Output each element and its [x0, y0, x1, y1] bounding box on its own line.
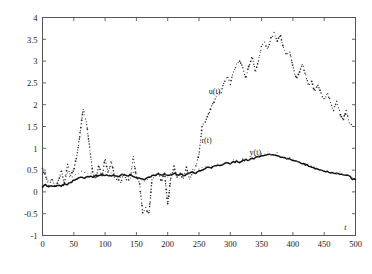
curve-dot-fine: [69, 176, 70, 177]
x-tick-label: 200: [161, 239, 174, 249]
curve-dot: [261, 46, 263, 48]
curve-dot: [170, 179, 171, 180]
curve-dot: [221, 92, 222, 93]
curve-dot-fine: [163, 175, 164, 176]
curve-dot: [135, 171, 137, 173]
annotations: u(t)r(t)y(t)t: [201, 87, 347, 232]
curve-dot: [248, 66, 250, 68]
curve-dot: [66, 170, 68, 172]
curve-dot-fine: [283, 158, 284, 159]
curve-dot: [140, 195, 141, 196]
curve-dot: [141, 199, 142, 200]
curve-dot-fine: [299, 161, 300, 162]
curve-dot-fine: [330, 172, 331, 173]
x-tick-label: 150: [130, 239, 143, 249]
curve-dot: [327, 93, 328, 94]
curve-dot: [309, 84, 310, 85]
curve-dot: [214, 98, 215, 99]
curve-dot: [236, 63, 237, 64]
curve-dot: [347, 115, 349, 117]
curve-dot: [134, 166, 135, 167]
curve-dot: [292, 64, 294, 66]
curve-dot: [181, 176, 183, 178]
curve-dot: [230, 80, 232, 82]
curve-dot: [84, 114, 85, 115]
curve-dot: [318, 87, 319, 88]
curve-dot: [201, 133, 202, 134]
curve-dot: [172, 172, 173, 173]
curve-dot-fine: [183, 175, 184, 176]
curve-dot: [247, 72, 248, 73]
curve-label-ut: u(t): [209, 87, 221, 96]
curve-dot-fine: [170, 173, 171, 174]
curve-dot: [300, 68, 302, 70]
curve-dot: [185, 169, 187, 171]
curve-dot: [303, 69, 305, 71]
curve-dot: [87, 133, 88, 134]
curve-dot-fine: [230, 163, 231, 164]
curve-dot: [76, 155, 77, 156]
curve-dot: [95, 177, 97, 179]
curve-dot: [113, 170, 115, 172]
y-tick-label: -0.5: [24, 209, 37, 219]
y-tick-label: 4: [33, 13, 38, 23]
curve-dot: [122, 176, 123, 177]
curve-dot-fine: [128, 177, 129, 178]
curve-dot: [201, 129, 203, 131]
curve-dot: [340, 116, 342, 118]
curve-dot-fine: [236, 159, 237, 160]
x-tick-label: 300: [224, 239, 237, 249]
curve-dot: [42, 168, 44, 170]
curve-dot: [56, 182, 58, 184]
curve-dot: [250, 60, 252, 62]
curve-r(t): [43, 154, 356, 187]
curve-dot: [339, 110, 340, 111]
curve-dot-fine: [42, 169, 43, 170]
curve-dot-fine: [355, 177, 356, 178]
curve-dot: [312, 83, 314, 85]
y-tick-label: 1.5: [27, 122, 38, 132]
curve-dot-fine: [108, 175, 109, 176]
curve-dot: [243, 71, 244, 72]
curve-dot: [71, 172, 73, 174]
curve-dot: [107, 169, 108, 170]
curve-dot-fine: [349, 175, 350, 176]
curve-dot: [342, 118, 343, 119]
curve-dot: [191, 174, 192, 175]
curve-dot: [169, 185, 171, 187]
curve-dot: [149, 201, 150, 202]
curve-dot-fine: [135, 173, 136, 174]
curve-dot: [325, 96, 326, 97]
curve-dot: [150, 195, 151, 196]
curve-dot: [50, 182, 51, 183]
curve-dot: [103, 165, 104, 166]
curve-dot: [305, 74, 306, 75]
curve-dot: [282, 42, 283, 43]
curve-dot: [176, 176, 178, 178]
curve-dot: [132, 162, 133, 163]
curve-dot: [240, 62, 242, 64]
curve-dot: [62, 173, 63, 174]
curve-dot: [328, 96, 330, 98]
curve-dot: [351, 124, 352, 125]
curve-dot: [81, 123, 82, 124]
curve-dot-fine: [311, 165, 312, 166]
curve-dot: [226, 77, 227, 78]
curve-dot: [198, 154, 199, 155]
curve-dot: [130, 177, 131, 178]
x-tick-label: 100: [99, 239, 112, 249]
curve-dot: [75, 158, 77, 160]
curve-dot: [186, 166, 188, 168]
curve-dot-fine: [217, 164, 218, 165]
curve-dot-fine: [186, 173, 187, 174]
curve-dot: [103, 170, 105, 172]
curve-dot-fine: [274, 155, 275, 156]
curve-dot: [197, 159, 198, 160]
curve-dot: [125, 177, 126, 178]
curve-dot: [146, 210, 148, 212]
curve-dot-fine: [78, 173, 79, 174]
curve-dot: [332, 107, 333, 108]
curve-dot-fine: [239, 161, 240, 162]
curve-dot: [99, 168, 101, 170]
curve-dot-fine: [245, 158, 246, 159]
